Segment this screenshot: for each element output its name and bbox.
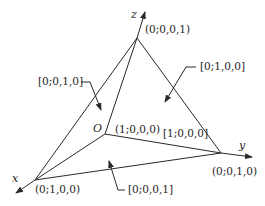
plane-label-far: [1;0,0,0] xyxy=(163,127,208,139)
tetrahedron-edges xyxy=(35,38,221,180)
x-vertex-coord: (0;1,0,0) xyxy=(35,183,80,195)
y-axis-arrow xyxy=(221,153,252,157)
edge-z-x xyxy=(35,38,137,180)
origin-label: O xyxy=(93,122,102,135)
plane-label-xy: [0;0,0,1] xyxy=(128,183,173,195)
axis-label-y: y xyxy=(238,139,246,152)
plane-label-yz: [0;1,0,0] xyxy=(200,60,245,72)
origin-coord: (1;0,0,0) xyxy=(115,123,160,135)
z-vertex-coord: (0;0,0,1) xyxy=(145,23,190,35)
x-axis-arrow xyxy=(16,180,35,193)
z-axis-arrow xyxy=(137,12,145,38)
axis-label-x: x xyxy=(12,172,19,185)
leader-xy-plane xyxy=(109,161,125,190)
edge-x-y xyxy=(35,153,221,180)
leader-xz-plane xyxy=(81,82,101,110)
diagram-canvas: z x y O (1;0,0,0) (0;0,0,1) (0;1,0,0) (0… xyxy=(0,0,265,206)
axis-label-z: z xyxy=(130,8,137,21)
edge-origin-x xyxy=(35,134,105,180)
y-vertex-coord: (0;0,1,0) xyxy=(212,165,257,177)
edge-z-origin xyxy=(105,38,137,134)
tetrahedron-diagram: z x y O (1;0,0,0) (0;0,0,1) (0;1,0,0) (0… xyxy=(0,0,265,206)
plane-label-xz: [0;0,1,0] xyxy=(38,75,83,87)
